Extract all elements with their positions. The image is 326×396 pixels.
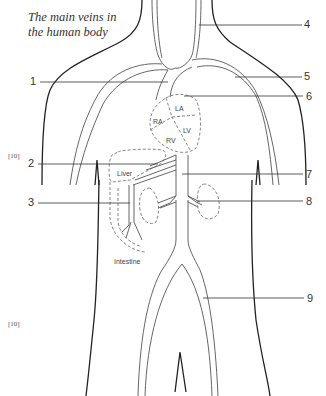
vein-lines bbox=[70, 0, 279, 396]
label-lv: LV bbox=[183, 127, 191, 134]
liver-outline bbox=[109, 149, 166, 182]
veins-diagram: LA RA LV RV Liver Intestine bbox=[0, 0, 326, 396]
label-ra: RA bbox=[153, 118, 163, 125]
label-rv: RV bbox=[166, 137, 176, 144]
label-liver: Liver bbox=[117, 170, 133, 177]
kidney-left bbox=[139, 188, 158, 224]
label-intestine: Intestine bbox=[114, 258, 141, 265]
label-la: LA bbox=[175, 105, 184, 112]
